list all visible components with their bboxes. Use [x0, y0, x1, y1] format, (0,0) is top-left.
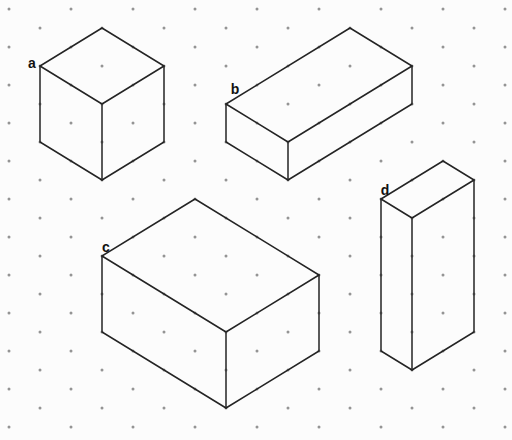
grid-dot	[504, 388, 507, 391]
grid-dot	[349, 179, 352, 182]
grid-dot	[132, 312, 135, 315]
grid-dot	[163, 407, 166, 410]
grid-dot	[39, 255, 42, 258]
grid-dot	[411, 141, 414, 144]
grid-dot	[318, 426, 321, 429]
grid-dot	[318, 236, 321, 239]
grid-dot	[256, 350, 259, 353]
grid-dot	[349, 217, 352, 220]
grid-dot	[380, 388, 383, 391]
grid-dot	[473, 369, 476, 372]
isometric-dot-paper: abcd	[0, 0, 512, 440]
grid-dot	[194, 274, 197, 277]
grid-dot	[349, 331, 352, 334]
grid-dot	[442, 122, 445, 125]
grid-dot	[504, 198, 507, 201]
grid-dot	[473, 141, 476, 144]
grid-dot	[442, 312, 445, 315]
grid-dot	[504, 236, 507, 239]
grid-dot	[287, 407, 290, 410]
grid-dot	[8, 388, 11, 391]
grid-dot	[39, 217, 42, 220]
grid-dot	[70, 122, 73, 125]
grid-dot	[504, 46, 507, 49]
grid-dot	[8, 84, 11, 87]
grid-dot	[101, 407, 104, 410]
grid-dot	[70, 236, 73, 239]
grid-dot	[70, 312, 73, 315]
grid-dot	[194, 350, 197, 353]
grid-dot	[70, 8, 73, 11]
grid-dot	[8, 160, 11, 163]
grid-dot	[101, 217, 104, 220]
grid-dot	[70, 274, 73, 277]
grid-dot	[349, 407, 352, 410]
grid-dot	[287, 27, 290, 30]
grid-dot	[194, 236, 197, 239]
shape-label-b: b	[231, 81, 240, 97]
grid-dot	[442, 8, 445, 11]
grid-dot	[256, 8, 259, 11]
grid-dot	[194, 84, 197, 87]
grid-dot	[70, 350, 73, 353]
grid-dot	[70, 388, 73, 391]
grid-dot	[473, 407, 476, 410]
isometric-diagram-svg: abcd	[0, 0, 512, 440]
grid-dot	[411, 407, 414, 410]
grid-dot	[163, 331, 166, 334]
grid-dot	[194, 160, 197, 163]
grid-dot	[70, 426, 73, 429]
paper-background	[0, 0, 512, 440]
grid-dot	[39, 331, 42, 334]
shape-label-d: d	[381, 182, 390, 198]
grid-dot	[225, 27, 228, 30]
grid-dot	[473, 65, 476, 68]
grid-dot	[8, 350, 11, 353]
grid-dot	[8, 46, 11, 49]
grid-dot	[442, 236, 445, 239]
grid-dot	[163, 255, 166, 258]
grid-dot	[256, 46, 259, 49]
grid-dot	[380, 426, 383, 429]
grid-dot	[39, 369, 42, 372]
grid-dot	[504, 84, 507, 87]
grid-dot	[194, 46, 197, 49]
grid-dot	[442, 388, 445, 391]
grid-dot	[380, 160, 383, 163]
grid-dot	[349, 255, 352, 258]
grid-dot	[39, 179, 42, 182]
grid-dot	[287, 217, 290, 220]
grid-dot	[411, 27, 414, 30]
grid-dot	[504, 426, 507, 429]
grid-dot	[163, 27, 166, 30]
grid-dot	[504, 160, 507, 163]
grid-dot	[287, 103, 290, 106]
grid-dot	[101, 65, 104, 68]
grid-dot	[504, 274, 507, 277]
grid-dot	[163, 179, 166, 182]
shape-label-a: a	[28, 55, 36, 71]
grid-dot	[194, 426, 197, 429]
grid-dot	[132, 122, 135, 125]
grid-dot	[70, 198, 73, 201]
grid-dot	[287, 331, 290, 334]
grid-dot	[349, 65, 352, 68]
grid-dot	[132, 198, 135, 201]
grid-dot	[8, 426, 11, 429]
grid-dot	[8, 236, 11, 239]
grid-dot	[256, 198, 259, 201]
grid-dot	[504, 8, 507, 11]
grid-dot	[101, 369, 104, 372]
grid-dot	[473, 103, 476, 106]
grid-dot	[132, 8, 135, 11]
grid-dot	[39, 27, 42, 30]
grid-dot	[318, 84, 321, 87]
grid-dot	[318, 388, 321, 391]
grid-dot	[318, 8, 321, 11]
grid-dot	[504, 350, 507, 353]
grid-dot	[442, 274, 445, 277]
grid-dot	[132, 388, 135, 391]
grid-dot	[442, 426, 445, 429]
grid-dot	[225, 179, 228, 182]
grid-dot	[194, 8, 197, 11]
